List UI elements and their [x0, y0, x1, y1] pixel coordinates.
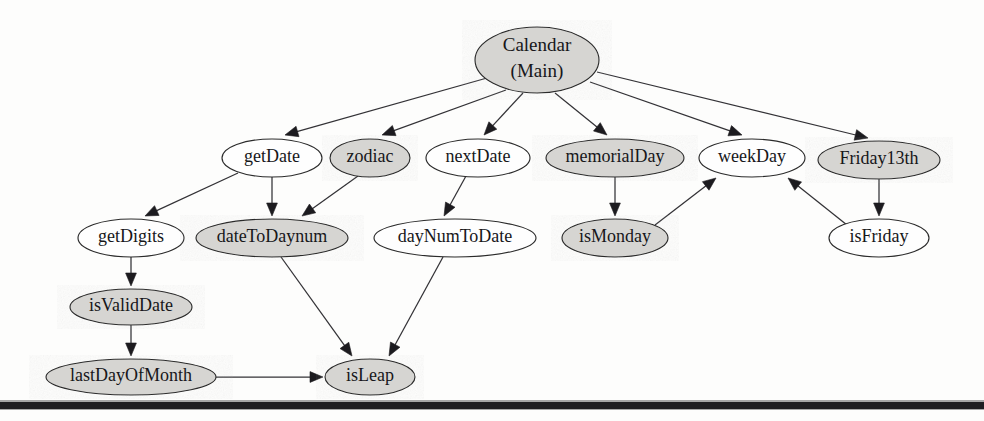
node-calendar_main[interactable]: Calendar(Main): [475, 27, 599, 93]
node-label: memorialDay: [566, 146, 665, 166]
edge-line: [590, 82, 732, 132]
edge-line: [155, 173, 238, 212]
edge-calendar_main-to-nextDate: [484, 93, 523, 135]
node-label: lastDayOfMonth: [70, 365, 192, 385]
edge-getDigits-to-isValidDate: [126, 257, 137, 286]
edge-line: [311, 176, 358, 210]
edge-line: [655, 184, 708, 225]
footer-rule-bar: [0, 402, 984, 409]
edge-nextDate-to-dayNumToDate: [444, 176, 466, 216]
node-label: isFriday: [849, 226, 908, 246]
node-label: (Main): [511, 60, 564, 82]
node-zodiac[interactable]: zodiac: [330, 139, 410, 177]
node-label: isMonday: [579, 226, 651, 246]
edge-getDate-to-getDigits: [145, 173, 238, 216]
node-getDate[interactable]: getDate: [222, 139, 322, 177]
node-label: Calendar: [503, 34, 572, 55]
call-graph-canvas: Calendar(Main)getDatezodiacnextDatememor…: [0, 0, 984, 421]
edge-line: [281, 257, 346, 347]
edge-line: [597, 72, 858, 136]
arrow-head-icon: [444, 202, 455, 216]
node-isFriday[interactable]: isFriday: [829, 219, 929, 257]
edge-isValidDate-to-lastDayOfMonth: [126, 325, 137, 356]
edge-line: [555, 93, 599, 128]
edge-isFriday-to-weekDay: [788, 178, 847, 225]
edge-dayNumToDate-to-isLeap: [389, 257, 443, 356]
node-Friday13th[interactable]: Friday13th: [818, 141, 940, 179]
node-label: getDate: [244, 146, 300, 166]
edge-line: [295, 78, 487, 132]
edge-memorialDay-to-isMonday: [610, 177, 621, 216]
arrow-head-icon: [728, 126, 742, 136]
node-memorialDay[interactable]: memorialDay: [546, 139, 684, 177]
edge-lastDayOfMonth-to-isLeap: [216, 372, 323, 383]
node-label: zodiac: [347, 146, 394, 166]
edge-dateToDaynum-to-isLeap: [281, 257, 352, 356]
arrow-head-icon: [389, 342, 400, 356]
arrow-head-icon: [302, 204, 316, 216]
node-label: isLeap: [346, 365, 394, 385]
arrow-head-icon: [310, 372, 323, 383]
node-label: Friday13th: [840, 148, 919, 168]
edge-calendar_main-to-memorialDay: [555, 93, 607, 135]
arrow-head-icon: [340, 342, 352, 356]
edge-line: [491, 93, 523, 127]
arrow-head-icon: [285, 126, 299, 136]
node-isMonday[interactable]: isMonday: [562, 219, 668, 257]
edge-getDate-to-dateToDaynum: [267, 177, 278, 216]
node-label: nextDate: [446, 146, 511, 166]
edge-line: [449, 176, 466, 207]
node-isValidDate[interactable]: isValidDate: [70, 289, 192, 325]
node-label: dateToDaynum: [217, 226, 328, 246]
arrow-head-icon: [145, 206, 159, 216]
arrow-head-icon: [788, 178, 802, 190]
edge-zodiac-to-dateToDaynum: [302, 176, 358, 216]
arrow-head-icon: [126, 343, 137, 356]
node-label: isValidDate: [89, 295, 173, 315]
node-label: weekDay: [718, 146, 786, 166]
footer-rule: [0, 400, 984, 410]
node-lastDayOfMonth[interactable]: lastDayOfMonth: [46, 359, 216, 395]
edge-line: [796, 185, 847, 225]
node-dayNumToDate[interactable]: dayNumToDate: [374, 219, 536, 257]
arrow-head-icon: [267, 203, 278, 216]
node-weekDay[interactable]: weekDay: [699, 139, 805, 177]
node-label: getDigits: [98, 226, 164, 246]
edge-line: [394, 257, 443, 347]
arrow-head-icon: [382, 125, 396, 135]
node-label: dayNumToDate: [398, 226, 513, 246]
call-graph-figure: Calendar(Main)getDatezodiacnextDatememor…: [0, 0, 984, 421]
edge-Friday13th-to-isFriday: [874, 179, 885, 216]
node-dateToDaynum[interactable]: dateToDaynum: [196, 219, 348, 257]
node-getDigits[interactable]: getDigits: [78, 219, 184, 257]
arrow-head-icon: [126, 273, 137, 286]
edge-calendar_main-to-weekDay: [590, 82, 742, 136]
node-isLeap[interactable]: isLeap: [325, 359, 415, 395]
arrow-head-icon: [702, 178, 716, 190]
arrow-head-icon: [854, 130, 868, 140]
arrow-head-icon: [593, 123, 607, 135]
arrow-head-icon: [610, 203, 621, 216]
arrow-head-icon: [874, 203, 885, 216]
nodes-layer: Calendar(Main)getDatezodiacnextDatememor…: [46, 27, 940, 395]
node-nextDate[interactable]: nextDate: [426, 139, 530, 177]
edge-isMonday-to-weekDay: [655, 178, 716, 225]
